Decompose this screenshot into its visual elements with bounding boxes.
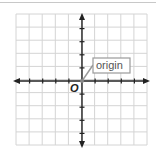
- coordinate-plane: origin O: [0, 0, 156, 157]
- origin-callout: origin: [82, 58, 130, 81]
- origin-label: O: [70, 82, 79, 94]
- callout-label: origin: [96, 59, 123, 71]
- origin-point: [80, 79, 84, 83]
